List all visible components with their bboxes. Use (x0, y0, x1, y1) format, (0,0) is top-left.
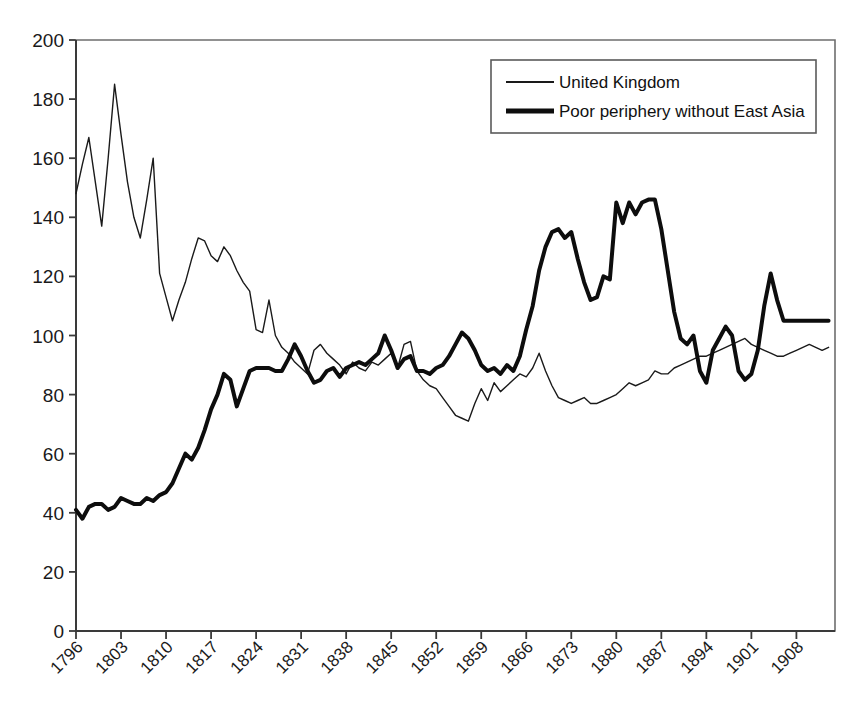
x-tick-label: 1838 (317, 637, 357, 677)
x-tick-label: 1852 (407, 637, 447, 677)
x-tick-label: 1824 (227, 637, 267, 677)
x-tick-label: 1887 (632, 637, 672, 677)
y-tick-label: 40 (43, 503, 64, 524)
y-tick-label: 100 (32, 326, 64, 347)
chart-figure: 020406080100120140160180200 179618031810… (0, 0, 864, 715)
x-tick-label: 1894 (677, 637, 717, 677)
x-tick-label-group: 1796180318101817182418311838184518521859… (47, 637, 808, 677)
x-tick-label: 1859 (452, 637, 492, 677)
y-tick-label: 140 (32, 207, 64, 228)
x-tick-label: 1873 (542, 637, 582, 677)
y-tick-mark-group (69, 40, 76, 631)
x-tick-label: 1880 (587, 637, 627, 677)
y-tick-label: 60 (43, 444, 64, 465)
y-tick-label: 0 (53, 621, 64, 642)
y-tick-label-group: 020406080100120140160180200 (32, 30, 64, 642)
legend-label: United Kingdom (559, 73, 680, 92)
y-tick-label: 120 (32, 266, 64, 287)
legend-box: United KingdomPoor periphery without Eas… (491, 60, 816, 133)
y-tick-label: 80 (43, 385, 64, 406)
y-tick-label: 200 (32, 30, 64, 51)
x-tick-label: 1901 (722, 637, 762, 677)
line-chart-canvas: 020406080100120140160180200 179618031810… (0, 0, 864, 715)
x-tick-label: 1908 (767, 637, 807, 677)
legend-frame (491, 60, 816, 133)
x-tick-label: 1866 (497, 637, 537, 677)
x-tick-mark-group (76, 631, 796, 639)
x-tick-label: 1803 (92, 637, 132, 677)
series-line-united-kingdom (76, 84, 829, 421)
x-tick-label: 1810 (137, 637, 177, 677)
y-tick-label: 160 (32, 148, 64, 169)
x-tick-label: 1817 (182, 637, 222, 677)
y-tick-label: 180 (32, 89, 64, 110)
x-tick-label: 1845 (362, 637, 402, 677)
x-tick-label: 1831 (272, 637, 312, 677)
legend-label: Poor periphery without East Asia (559, 102, 805, 121)
series-line-poor-periphery (76, 200, 829, 519)
series-layer (76, 84, 829, 518)
x-tick-label: 1796 (47, 637, 87, 677)
y-tick-label: 20 (43, 562, 64, 583)
